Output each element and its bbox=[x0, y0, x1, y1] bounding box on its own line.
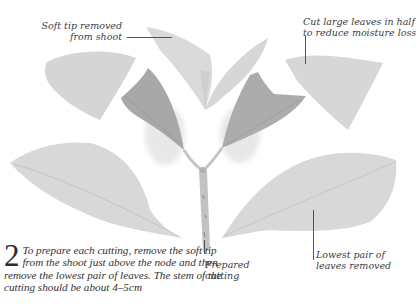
stem bbox=[184, 148, 222, 252]
cut-leaf-left bbox=[121, 68, 185, 165]
callout-soft-tip-line1: Soft tip removed bbox=[40, 20, 122, 31]
leader-line-lowest-pair bbox=[313, 210, 314, 260]
callout-lowest-pair-line1: Lowest pair of bbox=[316, 249, 391, 260]
removed-leaf-right bbox=[222, 153, 396, 238]
leader-line-soft-tip bbox=[127, 37, 172, 38]
half-leaf-top-left bbox=[45, 52, 136, 120]
leader-line-cut-leaves bbox=[305, 36, 306, 64]
half-leaf-top-right bbox=[285, 56, 383, 130]
callout-cut-leaves-line1: Cut large leaves in half bbox=[303, 16, 416, 27]
callout-cut-leaves: Cut large leaves in half to reduce moist… bbox=[303, 16, 416, 38]
step-text: To prepare each cutting, remove the soft… bbox=[4, 244, 222, 293]
step-instructions: 2 To prepare each cutting, remove the so… bbox=[4, 244, 229, 293]
callout-lowest-pair: Lowest pair of leaves removed bbox=[316, 249, 391, 271]
callout-lowest-pair-line2: leaves removed bbox=[316, 260, 391, 271]
callout-soft-tip-line2: from shoot bbox=[40, 31, 122, 42]
callout-soft-tip: Soft tip removed from shoot bbox=[40, 20, 122, 42]
step-number: 2 bbox=[4, 244, 20, 268]
callout-cut-leaves-line2: to reduce moisture loss bbox=[303, 27, 416, 38]
